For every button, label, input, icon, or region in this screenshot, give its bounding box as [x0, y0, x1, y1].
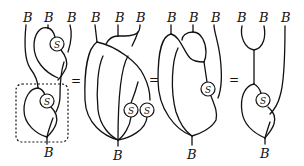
wire — [48, 28, 55, 37]
input-label-3: B — [280, 10, 291, 25]
equals-sign: = — [229, 73, 239, 87]
output-label: B — [259, 146, 270, 161]
wire — [38, 88, 45, 95]
input-label-1: B — [22, 10, 33, 25]
antipode-label: S — [54, 40, 60, 50]
output-label: B — [43, 145, 54, 160]
input-label-1: B — [166, 10, 177, 25]
wire — [171, 34, 204, 62]
wire — [95, 25, 97, 42]
wire — [131, 82, 138, 103]
wire — [97, 42, 150, 100]
input-label-2: B — [188, 10, 199, 25]
wire — [58, 50, 67, 80]
wire — [85, 42, 118, 140]
antipode-label: S — [144, 106, 150, 116]
wire — [106, 36, 118, 44]
diagram-step3: B B B S B — [158, 10, 221, 162]
wire — [172, 48, 192, 136]
wire — [254, 84, 261, 93]
output-label: B — [112, 148, 123, 163]
wire — [192, 96, 217, 136]
diagram-rhs: B B B S B — [236, 10, 291, 161]
wire — [270, 26, 285, 114]
input-label-1: B — [236, 10, 247, 25]
antipode-label: S — [260, 96, 266, 106]
antipode-label: S — [205, 85, 211, 95]
input-label-3: B — [210, 10, 221, 25]
output-label: B — [186, 147, 197, 162]
antipode-label: S — [44, 97, 50, 107]
wire — [193, 32, 206, 62]
equals-sign: = — [71, 74, 81, 88]
wire — [182, 32, 193, 40]
input-label-2: B — [43, 10, 54, 25]
antipode-label: S — [128, 106, 134, 116]
wire — [158, 34, 192, 136]
diagram-step2: B B B S S B — [85, 10, 154, 163]
input-label-2: B — [114, 10, 125, 25]
input-label-3: B — [66, 10, 77, 25]
input-label-3: B — [135, 10, 146, 25]
wire — [118, 56, 128, 140]
wire — [68, 25, 71, 52]
diagram-lhs: B B B S S B — [16, 10, 77, 160]
string-diagram-equation: B B B S S B = B B B — [0, 0, 304, 166]
wire — [242, 26, 265, 50]
wire — [56, 62, 64, 112]
input-label-2: B — [258, 10, 269, 25]
input-label-1: B — [90, 10, 101, 25]
wire — [97, 56, 118, 140]
wire — [204, 62, 207, 82]
wire — [242, 84, 266, 138]
